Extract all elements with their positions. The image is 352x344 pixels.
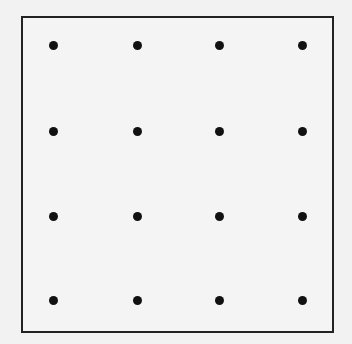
- grid-dot-r1-c2: [133, 41, 142, 50]
- grid-dot-r3-c1: [49, 212, 58, 221]
- grid-dot-r1-c3: [215, 41, 224, 50]
- grid-dot-r2-c4: [298, 127, 307, 136]
- grid-dot-r3-c2: [133, 212, 142, 221]
- grid-dot-r2-c1: [49, 127, 58, 136]
- grid-dot-r4-c4: [298, 296, 307, 305]
- grid-dot-r4-c2: [133, 296, 142, 305]
- grid-dot-r1-c1: [49, 41, 58, 50]
- grid-dot-r3-c4: [298, 212, 307, 221]
- grid-dot-r4-c1: [49, 296, 58, 305]
- grid-dot-r4-c3: [215, 296, 224, 305]
- grid-dot-r2-c2: [133, 127, 142, 136]
- diagram-canvas: [0, 0, 352, 344]
- grid-dot-r3-c3: [215, 212, 224, 221]
- grid-dot-r1-c4: [298, 41, 307, 50]
- square-frame: [21, 16, 334, 333]
- grid-dot-r2-c3: [215, 127, 224, 136]
